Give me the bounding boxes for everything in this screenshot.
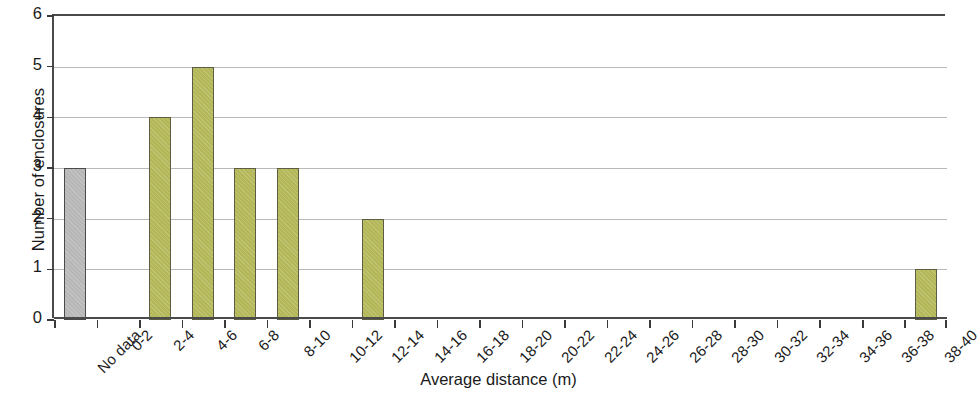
bar-slot <box>54 16 97 320</box>
bar-slot <box>224 16 267 320</box>
bar-slot <box>182 16 225 320</box>
x-axis-tick-label: 10-12 <box>345 326 385 366</box>
bars-group <box>54 16 947 320</box>
bar[interactable] <box>362 219 384 320</box>
bar-slot <box>522 16 565 320</box>
bar-slot <box>607 16 650 320</box>
x-axis-tick-label: 6-8 <box>255 326 283 354</box>
bar-slot <box>692 16 735 320</box>
x-axis-tick-label: 38-40 <box>940 326 980 366</box>
bar-slot <box>479 16 522 320</box>
bar-slot <box>139 16 182 320</box>
x-axis-tick-mark <box>945 320 947 328</box>
y-axis-tick-label: 2 <box>0 208 42 225</box>
x-axis-tick-label: 34-36 <box>855 326 895 366</box>
bar-slot <box>777 16 820 320</box>
x-axis-tick-label: 24-26 <box>643 326 683 366</box>
x-axis-title: Average distance (m) <box>52 370 945 389</box>
x-axis-tick-label: 22-24 <box>600 326 640 366</box>
x-axis-tick-label: 8-10 <box>300 326 334 360</box>
bar-slot <box>904 16 947 320</box>
x-axis-tick-label: 36-38 <box>898 326 938 366</box>
bar-slot <box>649 16 692 320</box>
x-axis-tick-label: 30-32 <box>770 326 810 366</box>
x-axis-tick-label: 4-6 <box>212 326 240 354</box>
bar-slot <box>267 16 310 320</box>
bar[interactable] <box>64 168 86 320</box>
x-axis-tick-label: 2-4 <box>170 326 198 354</box>
bar-slot <box>819 16 862 320</box>
bar-slot <box>394 16 437 320</box>
y-axis-tick-label: 5 <box>0 56 42 73</box>
bar[interactable] <box>915 269 937 320</box>
y-axis-tick-mark <box>47 167 54 169</box>
plot-area <box>52 14 945 318</box>
bar-slot <box>437 16 480 320</box>
y-axis-tick-label: 4 <box>0 106 42 123</box>
bar-slot <box>734 16 777 320</box>
y-axis-tick-mark <box>47 269 54 271</box>
x-axis-tick-label: 14-16 <box>430 326 470 366</box>
bar-slot <box>564 16 607 320</box>
bar-slot <box>352 16 395 320</box>
x-axis-tick-label: 18-20 <box>515 326 555 366</box>
x-axis-tick-label: 32-34 <box>813 326 853 366</box>
x-axis-tick-label: 16-18 <box>473 326 513 366</box>
y-axis-tick-mark <box>47 218 54 220</box>
y-axis-tick-mark <box>47 15 54 17</box>
bar-slot <box>309 16 352 320</box>
y-axis-tick-label: 3 <box>0 157 42 174</box>
y-axis-tick-mark <box>47 117 54 119</box>
x-axis-tick-label: 20-22 <box>558 326 598 366</box>
bar[interactable] <box>277 168 299 320</box>
y-axis-tick-mark <box>47 66 54 68</box>
bar[interactable] <box>234 168 256 320</box>
bar[interactable] <box>149 117 171 320</box>
bar[interactable] <box>192 67 214 320</box>
x-axis-tick-labels-group: No data0-22-44-66-88-1010-1212-1414-1616… <box>52 318 945 370</box>
x-axis-tick-label: 28-30 <box>728 326 768 366</box>
y-axis-tick-label: 6 <box>0 5 42 22</box>
bar-slot <box>97 16 140 320</box>
x-axis-tick-label: 26-28 <box>685 326 725 366</box>
x-axis-tick-label: 12-14 <box>388 326 428 366</box>
y-axis-tick-label: 1 <box>0 258 42 275</box>
y-axis-tick-label: 0 <box>0 309 42 326</box>
bar-slot <box>862 16 905 320</box>
